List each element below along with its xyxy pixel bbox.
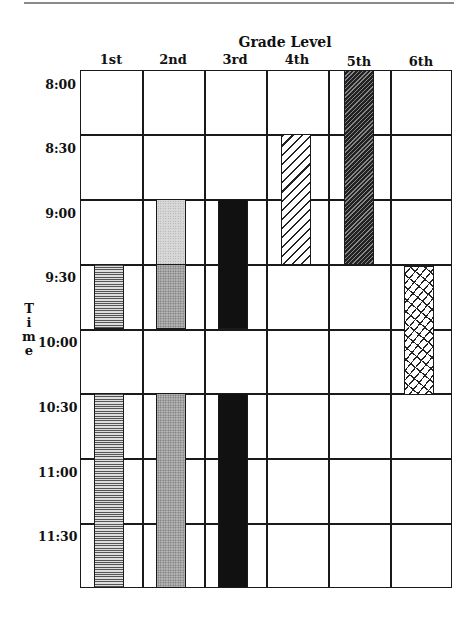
bar-2nd-0930-1000: [156, 264, 186, 329]
column-label-1st: 1st: [80, 52, 142, 67]
bar-2nd-1030-1200: [156, 393, 186, 588]
row-label-1030: 10:30: [38, 400, 76, 415]
bar-4th-0830-0930: [281, 134, 311, 265]
column-label-2nd: 2nd: [142, 52, 204, 67]
column-label-3rd: 3rd: [204, 52, 266, 67]
bar-1st-0930-1000: [94, 264, 124, 329]
grid-frame: [80, 70, 452, 588]
column-label-6th: 6th: [390, 54, 452, 69]
schedule-grid: [80, 70, 452, 588]
row-label-1130: 11:30: [38, 529, 76, 544]
y-title-letter: m: [22, 330, 36, 344]
bar-1st-1030-1200: [94, 393, 124, 588]
row-label-900: 9:00: [38, 206, 76, 221]
row-label-1000: 10:00: [38, 335, 76, 350]
row-label-1100: 11:00: [38, 465, 76, 480]
top-rule: [24, 2, 454, 4]
column-label-4th: 4th: [266, 52, 328, 67]
y-title-letter: e: [22, 344, 36, 358]
y-title-letter: T: [22, 302, 36, 316]
column-label-5th: 5th: [328, 54, 390, 69]
bar-2nd-0900-0930: [156, 199, 186, 265]
y-axis-title: T i m e: [22, 302, 36, 358]
row-label-830: 8:30: [38, 141, 76, 156]
bar-5th-0800-0930: [344, 70, 374, 265]
bar-3rd-1030-1200: [218, 393, 248, 588]
bar-6th-0930-1030: [404, 266, 434, 395]
y-title-letter: i: [22, 316, 36, 330]
chart-title: Grade Level: [200, 34, 370, 50]
row-label-930: 9:30: [38, 270, 76, 285]
bar-3rd-0900-1000: [218, 199, 248, 329]
row-label-800: 8:00: [38, 77, 76, 92]
